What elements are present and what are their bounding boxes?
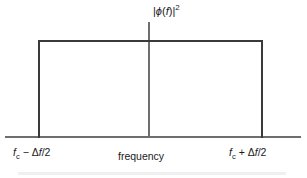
x-axis-label: frequency <box>118 150 164 163</box>
scan-artifact <box>18 172 286 175</box>
spectrum-left-edge <box>38 40 40 138</box>
y-axis-variable: f <box>166 5 169 17</box>
left-operator: − <box>23 146 29 158</box>
right-delta-symbol: Δ <box>248 146 255 158</box>
x-tick-label-left: fc − Δf/2 <box>13 146 50 163</box>
spectrum-top-edge <box>38 40 263 42</box>
left-delta-symbol: Δ <box>32 146 39 158</box>
x-tick-label-right: fc + Δf/2 <box>229 146 266 163</box>
y-axis-exponent: 2 <box>175 3 179 12</box>
right-operator: + <box>239 146 245 158</box>
left-subscript: c <box>16 152 20 161</box>
y-axis-symbol: ϕ <box>156 5 162 17</box>
horizontal-axis-line <box>5 136 301 138</box>
spectrum-right-edge <box>261 40 263 138</box>
y-axis-label: |ϕ(f)|2 <box>153 1 180 18</box>
left-divisor: /2 <box>42 146 51 158</box>
right-subscript: c <box>232 152 236 161</box>
spectrum-figure: |ϕ(f)|2 fc − Δf/2 fc + Δf/2 frequency <box>0 0 307 178</box>
right-divisor: /2 <box>258 146 267 158</box>
